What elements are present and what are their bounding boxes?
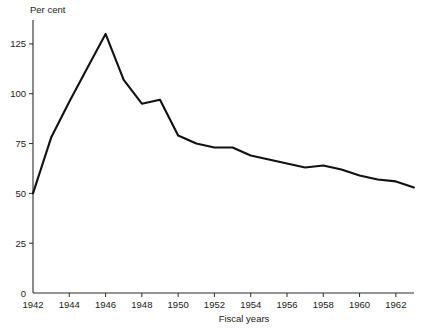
x-tick-label: 1952 [204,299,225,310]
line-chart: 0255075100125 19421944194619481950195219… [0,0,427,336]
x-axis-ticks: 1942194419461948195019521954195619581960… [22,293,406,310]
x-tick-label: 1946 [95,299,116,310]
y-tick-label: 100 [10,88,26,99]
x-tick-label: 1960 [349,299,370,310]
x-tick-label: 1962 [385,299,406,310]
y-tick-label: 75 [15,138,26,149]
y-tick-label: 125 [10,38,26,49]
chart-container: 0255075100125 19421944194619481950195219… [0,0,427,336]
y-tick-label: 25 [15,238,26,249]
y-axis-ticks: 0255075100125 [10,38,33,298]
x-tick-label: 1944 [59,299,80,310]
x-tick-label: 1948 [131,299,152,310]
y-tick-label: 0 [21,288,26,299]
data-series-line [33,34,414,193]
x-tick-label: 1956 [276,299,297,310]
x-tick-label: 1954 [240,299,261,310]
y-tick-label: 50 [15,188,26,199]
x-tick-label: 1950 [168,299,189,310]
x-tick-label: 1958 [313,299,334,310]
y-axis-title: Per cent [30,4,66,15]
x-tick-label: 1942 [22,299,43,310]
x-axis-title: Fiscal years [219,313,270,324]
